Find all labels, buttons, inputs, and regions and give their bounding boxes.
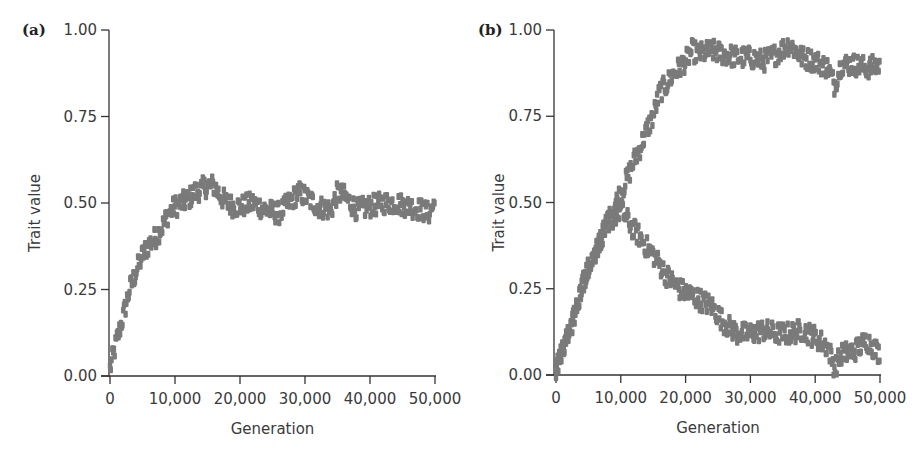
x-tick-label: 20,000 [659, 389, 712, 407]
x-tick-label: 10,000 [595, 389, 648, 407]
y-axis-title: Trait value [490, 173, 508, 252]
y-tick-label: 0.25 [509, 280, 542, 298]
x-tick-label: 0 [551, 389, 561, 407]
x-tick-label: 40,000 [344, 390, 397, 408]
x-tick-label: 40,000 [789, 389, 842, 407]
y-tick-label: 0.25 [64, 281, 97, 299]
data-series [554, 37, 882, 381]
x-tick-label: 30,000 [279, 390, 332, 408]
x-tick-label: 50,000 [854, 389, 907, 407]
y-tick-label: 1.00 [64, 21, 97, 39]
y-tick-label: 0.00 [509, 366, 542, 384]
data-series [108, 174, 437, 374]
panel-b: 0.000.250.500.751.00010,00020,00030,0004… [478, 21, 906, 437]
x-tick-label: 10,000 [149, 390, 202, 408]
y-tick-label: 0.75 [64, 108, 97, 126]
panel-a: 0.000.250.500.751.00010,00020,00030,0004… [22, 21, 461, 438]
x-tick-label: 50,000 [409, 390, 462, 408]
x-tick-label: 0 [105, 390, 115, 408]
x-tick-label: 30,000 [724, 389, 777, 407]
panel-label: (a) [22, 21, 46, 39]
y-tick-label: 0.50 [64, 194, 97, 212]
y-tick-label: 0.75 [509, 107, 542, 125]
x-axis-title: Generation [231, 420, 315, 438]
y-tick-label: 0.50 [509, 194, 542, 212]
panel-label: (b) [478, 21, 503, 39]
data-series [554, 199, 882, 379]
y-tick-label: 1.00 [509, 21, 542, 39]
x-tick-label: 20,000 [214, 390, 267, 408]
x-axis-title: Generation [676, 419, 760, 437]
y-axis-title: Trait value [26, 174, 44, 253]
figure: 0.000.250.500.751.00010,00020,00030,0004… [0, 0, 923, 464]
y-tick-label: 0.00 [64, 367, 97, 385]
